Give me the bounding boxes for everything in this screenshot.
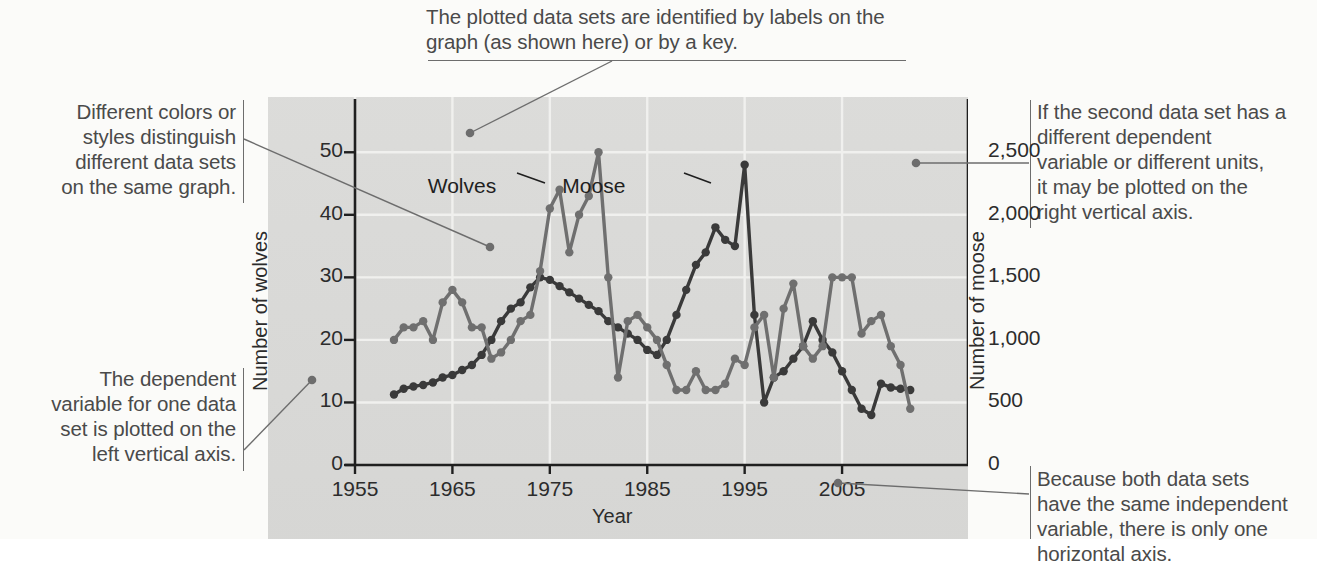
annotation-right-bottom: Because both data sets have the same ind…	[1037, 466, 1317, 565]
annotation-right-bottom-rule	[1030, 466, 1031, 539]
data-point-wolves	[477, 323, 485, 331]
data-point-wolves	[458, 298, 466, 306]
data-point-moose	[779, 367, 787, 375]
y-axis-left-tick-label: 50	[287, 138, 343, 162]
data-point-moose	[663, 336, 671, 344]
data-point-wolves	[575, 211, 583, 219]
x-axis-tick-label: 1995	[700, 477, 790, 501]
data-point-wolves	[390, 336, 398, 344]
data-point-wolves	[526, 311, 534, 319]
data-point-wolves	[711, 386, 719, 394]
y-axis-left-tick-label: 10	[287, 388, 343, 412]
annotation-right-bottom-line-1: Because both data sets	[1037, 466, 1317, 491]
y-axis-right-tick-label: 0	[988, 451, 1000, 475]
data-point-moose	[809, 317, 817, 325]
data-point-wolves	[857, 329, 865, 337]
data-point-wolves	[848, 273, 856, 281]
data-point-moose	[507, 304, 515, 312]
data-point-moose	[877, 379, 885, 387]
y-axis-left-tick-label: 40	[287, 201, 343, 225]
annotation-left-bottom-rule	[243, 368, 244, 471]
data-point-moose	[740, 161, 748, 169]
series-label-moose: Moose	[562, 174, 625, 198]
data-point-moose	[468, 361, 476, 369]
x-axis-tick-label: 1955	[310, 477, 400, 501]
annotation-left-top: Different colors or styles distinguish d…	[18, 99, 236, 199]
annotation-left-bottom-line-2: variable for one data	[8, 391, 236, 416]
data-point-moose	[594, 307, 602, 315]
data-point-moose	[828, 348, 836, 356]
y-axis-right-tick-label: 1,000	[988, 326, 1041, 350]
annotation-left-top-rule	[243, 100, 244, 203]
data-point-wolves	[516, 317, 524, 325]
data-point-wolves	[779, 304, 787, 312]
annotation-right-bottom-line-2: have the same independent	[1037, 491, 1317, 516]
data-point-wolves	[429, 336, 437, 344]
data-point-moose	[497, 317, 505, 325]
y-axis-right-tick-label: 500	[988, 388, 1023, 412]
data-point-wolves	[799, 342, 807, 350]
annotation-left-top-line-1: Different colors or	[18, 99, 236, 124]
data-point-wolves	[828, 273, 836, 281]
series-line-moose	[394, 165, 910, 415]
data-point-wolves	[701, 386, 709, 394]
data-point-moose	[487, 336, 495, 344]
data-point-moose	[448, 371, 456, 379]
data-point-moose	[789, 354, 797, 362]
data-point-wolves	[809, 354, 817, 362]
data-point-moose	[477, 351, 485, 359]
data-point-wolves	[614, 373, 622, 381]
data-point-wolves	[663, 361, 671, 369]
data-point-moose	[848, 386, 856, 394]
data-point-wolves	[448, 286, 456, 294]
data-point-moose	[555, 282, 563, 290]
data-point-moose	[516, 298, 524, 306]
data-point-moose	[400, 384, 408, 392]
data-point-wolves	[546, 204, 554, 212]
data-point-wolves	[594, 148, 602, 156]
data-point-wolves	[692, 367, 700, 375]
data-point-wolves	[760, 311, 768, 319]
x-axis-tick-label: 1975	[505, 477, 595, 501]
data-point-wolves	[721, 379, 729, 387]
annotation-right-top-line-4: it may be plotted on the	[1037, 174, 1317, 199]
x-axis-tick-label: 1965	[407, 477, 497, 501]
y-axis-left-tick-label: 20	[287, 326, 343, 350]
data-point-wolves	[438, 298, 446, 306]
data-point-wolves	[409, 323, 417, 331]
x-axis-tick-label: 1985	[602, 477, 692, 501]
data-point-moose	[565, 288, 573, 296]
data-point-wolves	[419, 317, 427, 325]
annotation-right-top: If the second data set has a different d…	[1037, 99, 1317, 224]
series-label-wolves: Wolves	[428, 174, 496, 198]
data-point-moose	[419, 381, 427, 389]
data-point-moose	[711, 223, 719, 231]
chart-gridlines	[355, 97, 968, 465]
data-point-wolves	[624, 317, 632, 325]
data-point-moose	[546, 276, 554, 284]
data-point-moose	[721, 236, 729, 244]
data-point-moose	[672, 311, 680, 319]
data-point-wolves	[565, 248, 573, 256]
data-point-wolves	[818, 342, 826, 350]
data-point-moose	[438, 373, 446, 381]
data-point-wolves	[497, 348, 505, 356]
x-axis-tick-label: 2005	[797, 477, 887, 501]
y-axis-right-title: Number of moose	[966, 231, 989, 390]
data-point-moose	[458, 366, 466, 374]
data-point-moose	[682, 286, 690, 294]
data-point-wolves	[770, 373, 778, 381]
annotation-left-bottom-line-1: The dependent	[8, 366, 236, 391]
annotation-right-top-line-1: If the second data set has a	[1037, 99, 1317, 124]
annotation-left-top-line-4: on the same graph.	[18, 174, 236, 199]
annotation-right-top-line-3: variable or different units,	[1037, 149, 1317, 174]
annotation-left-bottom: The dependent variable for one data set …	[8, 366, 236, 466]
data-point-moose	[692, 261, 700, 269]
data-point-wolves	[633, 311, 641, 319]
data-point-moose	[701, 248, 709, 256]
y-axis-left-tick-label: 30	[287, 263, 343, 287]
annotation-right-top-line-2: different dependent	[1037, 124, 1317, 149]
y-axis-right-tick-label: 2,000	[988, 201, 1041, 225]
y-axis-right-tick-label: 2,500	[988, 138, 1041, 162]
